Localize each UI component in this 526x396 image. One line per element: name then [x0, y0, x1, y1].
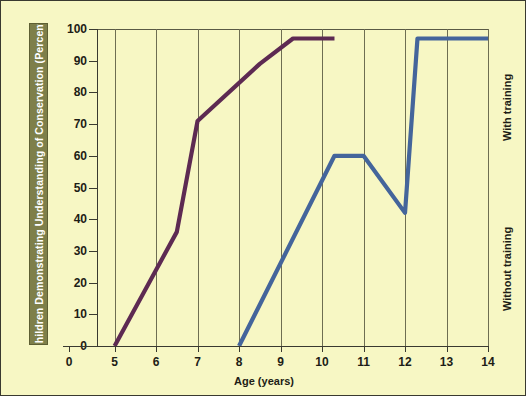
y-tick-label: 70: [47, 117, 87, 131]
y-tick-label: 20: [47, 276, 87, 290]
plot-area: [98, 29, 488, 346]
y-tick-mark: [89, 124, 97, 125]
chart-figure: Children Demonstrating Understanding of …: [0, 0, 526, 396]
x-tick-label: 14: [468, 355, 508, 369]
x-tick-mark: [322, 346, 323, 352]
y-tick-label: 80: [47, 85, 87, 99]
y-axis-title: Children Demonstrating Understanding of …: [33, 23, 45, 345]
x-tick-mark: [447, 346, 448, 352]
x-tick-mark: [115, 346, 116, 352]
series-line-with-training: [115, 39, 335, 346]
y-tick-label: 50: [47, 181, 87, 195]
x-axis-line: [63, 346, 488, 347]
x-tick-mark: [198, 346, 199, 352]
x-tick-label: 12: [385, 355, 425, 369]
y-tick-mark: [89, 61, 97, 62]
x-axis-title: Age (years): [1, 375, 526, 387]
x-tick-mark: [281, 346, 282, 352]
x-tick-mark: [405, 346, 406, 352]
series-layer: [98, 29, 488, 346]
y-tick-mark: [89, 219, 97, 220]
x-tick-mark: [488, 346, 489, 352]
x-tick-label: 13: [427, 355, 467, 369]
series-label-with-training: With training: [501, 74, 513, 141]
y-tick-label: 40: [47, 212, 87, 226]
gridline: [488, 29, 489, 346]
x-tick-label: 10: [302, 355, 342, 369]
y-tick-mark: [89, 314, 97, 315]
y-tick-label: 10: [47, 307, 87, 321]
x-tick-label: 9: [261, 355, 301, 369]
x-tick-label: 6: [136, 355, 176, 369]
x-tick-label: 0: [49, 355, 89, 369]
x-tick-mark: [156, 346, 157, 352]
x-tick-mark: [364, 346, 365, 352]
y-tick-label: 90: [47, 54, 87, 68]
x-tick-label: 5: [95, 355, 135, 369]
y-tick-mark: [89, 92, 97, 93]
x-tick-label: 8: [219, 355, 259, 369]
x-tick-mark: [239, 346, 240, 352]
y-tick-label: 60: [47, 149, 87, 163]
y-axis-title-band: Children Demonstrating Understanding of …: [29, 23, 48, 345]
y-tick-mark: [89, 251, 97, 252]
y-tick-mark: [89, 29, 97, 30]
x-tick-mark: [69, 346, 70, 352]
x-tick-label: 7: [178, 355, 218, 369]
y-tick-label: 30: [47, 244, 87, 258]
series-label-without-training: Without training: [501, 227, 513, 311]
series-line-without-training: [239, 39, 488, 346]
y-tick-label: 100: [47, 22, 87, 36]
y-tick-mark: [89, 188, 97, 189]
y-tick-mark: [89, 283, 97, 284]
y-tick-mark: [89, 156, 97, 157]
x-tick-label: 11: [344, 355, 384, 369]
